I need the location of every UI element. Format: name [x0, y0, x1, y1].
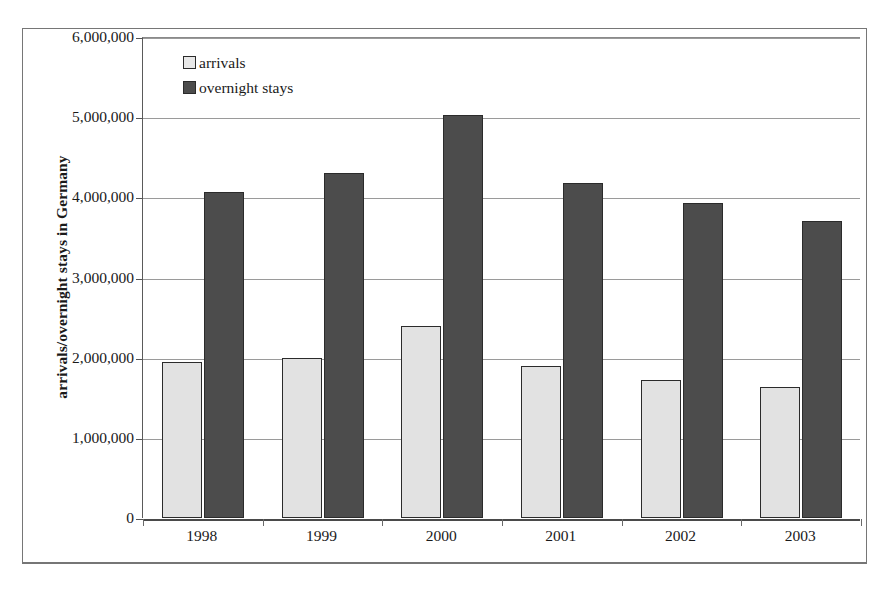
x-tick-mark	[622, 519, 623, 526]
x-tick-mark	[861, 519, 862, 526]
y-tick-mark	[136, 198, 143, 199]
legend-swatch-overnight-stays	[183, 81, 196, 94]
y-axis-tick-labels: 01,000,0002,000,0003,000,0004,000,0005,0…	[30, 37, 134, 518]
x-tick-label-1998: 1998	[186, 527, 217, 545]
bar-overnight-stays-2001	[563, 183, 603, 518]
x-tick-label-2003: 2003	[785, 527, 816, 545]
y-tick-label: 3,000,000	[72, 269, 134, 287]
bar-arrivals-1999	[282, 358, 322, 518]
x-tick-label-2002: 2002	[665, 527, 696, 545]
y-tick-mark	[136, 359, 143, 360]
bar-arrivals-2003	[760, 387, 800, 518]
bar-arrivals-1998	[162, 362, 202, 518]
x-tick-mark	[382, 519, 383, 526]
x-tick-label-1999: 1999	[306, 527, 337, 545]
y-tick-label: 5,000,000	[72, 108, 134, 126]
gridline	[143, 279, 860, 280]
plot-area: arrivals overnight stays	[142, 37, 860, 518]
y-tick-mark	[136, 439, 143, 440]
bar-overnight-stays-2002	[683, 203, 723, 518]
x-tick-mark	[143, 519, 144, 526]
bar-overnight-stays-2003	[802, 221, 842, 518]
x-tick-label-2000: 2000	[426, 527, 457, 545]
y-tick-mark	[136, 118, 143, 119]
x-tick-mark	[502, 519, 503, 526]
bar-arrivals-2000	[401, 326, 441, 518]
bar-arrivals-2002	[641, 380, 681, 518]
gridline	[143, 198, 860, 199]
bar-overnight-stays-1999	[324, 173, 364, 518]
legend-swatch-arrivals	[183, 56, 196, 69]
x-tick-label-2001: 2001	[545, 527, 576, 545]
bar-arrivals-2001	[521, 366, 561, 518]
chart-legend: arrivals overnight stays	[183, 50, 393, 100]
legend-item-arrivals: arrivals	[183, 50, 393, 75]
bar-overnight-stays-1998	[204, 192, 244, 518]
gridline	[143, 38, 860, 39]
y-tick-mark	[136, 279, 143, 280]
chart-figure: arrivals/overnight stays in Germany 01,0…	[0, 0, 891, 590]
y-tick-mark	[136, 38, 143, 39]
y-tick-label: 1,000,000	[72, 429, 134, 447]
x-tick-mark	[263, 519, 264, 526]
y-tick-label: 2,000,000	[72, 349, 134, 367]
gridline	[143, 359, 860, 360]
gridline	[143, 439, 860, 440]
legend-item-overnight-stays: overnight stays	[183, 75, 393, 100]
gridline	[143, 118, 860, 119]
legend-label-overnight-stays: overnight stays	[199, 79, 293, 97]
y-tick-mark	[136, 519, 143, 520]
legend-label-arrivals: arrivals	[199, 54, 245, 72]
y-tick-label: 0	[126, 509, 134, 527]
bar-overnight-stays-2000	[443, 115, 483, 518]
y-tick-label: 4,000,000	[72, 188, 134, 206]
y-tick-label: 6,000,000	[72, 28, 134, 46]
x-tick-mark	[741, 519, 742, 526]
